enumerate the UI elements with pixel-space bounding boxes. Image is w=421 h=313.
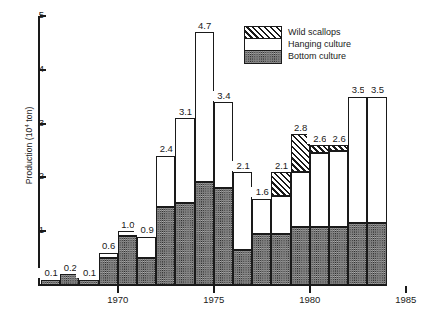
segment-bottom-culture-1981 — [329, 227, 348, 285]
segment-hanging-culture-1977 — [252, 199, 271, 234]
segment-wild-scallops-1978 — [271, 172, 290, 196]
bar-1973 — [175, 118, 194, 285]
x-tick-label-1985: 1985 — [384, 295, 421, 305]
segment-bottom-culture-1976 — [233, 250, 252, 285]
segment-hanging-culture-1982 — [348, 97, 367, 223]
segment-wild-scallops-1980 — [310, 145, 329, 153]
x-tick-1980 — [309, 286, 311, 293]
segment-bottom-culture-1970 — [118, 236, 137, 285]
x-tick-1975 — [213, 286, 215, 293]
segment-bottom-culture-1980 — [310, 227, 329, 285]
legend-swatch-hanging-culture — [245, 39, 281, 51]
segment-bottom-culture-1974 — [195, 182, 214, 285]
segment-bottom-culture-1983 — [367, 223, 386, 285]
segment-hanging-culture-1983 — [367, 97, 386, 223]
bar-1968 — [79, 280, 98, 285]
bar-1975 — [214, 102, 233, 285]
bar-1971 — [137, 237, 156, 285]
bar-value-label-1975: 3.4 — [211, 91, 237, 101]
bar-value-label-1976: 2.1 — [230, 161, 256, 171]
legend-label-wild-scallops: Wild scallops — [288, 26, 351, 38]
segment-hanging-culture-1974 — [195, 32, 214, 182]
segment-bottom-culture-1982 — [348, 223, 367, 285]
x-tick-label-1970: 1970 — [96, 295, 140, 305]
segment-hanging-culture-1969 — [99, 253, 118, 258]
segment-bottom-culture-1972 — [156, 207, 175, 285]
bar-1974 — [195, 32, 214, 285]
x-tick-1970 — [117, 286, 119, 293]
segment-bottom-culture-1977 — [252, 234, 271, 285]
bar-1979 — [291, 134, 310, 285]
segment-hanging-culture-1976 — [233, 172, 252, 250]
x-tick-label-1980: 1980 — [288, 295, 332, 305]
bar-1983 — [367, 97, 386, 285]
legend-swatch-wild-scallops — [245, 27, 281, 39]
segment-bottom-culture-1975 — [214, 188, 233, 285]
bar-value-label-1979: 2.8 — [288, 123, 314, 133]
bar-1977 — [252, 199, 271, 285]
segment-hanging-culture-1971 — [137, 237, 156, 259]
bar-1980 — [310, 145, 329, 285]
bar-value-label-1974: 4.7 — [192, 21, 218, 31]
legend: Wild scallopsHanging cultureBottom cultu… — [244, 26, 351, 64]
segment-bottom-culture-1969 — [99, 258, 118, 285]
legend-label-hanging-culture: Hanging culture — [288, 38, 351, 50]
segment-bottom-culture-1968 — [79, 280, 98, 285]
segment-bottom-culture-1966 — [41, 280, 60, 285]
bar-1970 — [118, 231, 137, 285]
bar-1982 — [348, 97, 367, 285]
bar-value-label-1983: 3.5 — [364, 85, 390, 95]
legend-labels: Wild scallopsHanging cultureBottom cultu… — [288, 26, 351, 62]
bar-1981 — [329, 145, 348, 285]
segment-hanging-culture-1978 — [271, 196, 290, 234]
segment-bottom-culture-1979 — [291, 227, 310, 285]
segment-hanging-culture-1972 — [156, 156, 175, 207]
x-tick-1985 — [405, 286, 407, 293]
y-axis-label: Production (104 ton) — [24, 70, 35, 220]
legend-swatches — [244, 26, 282, 64]
segment-hanging-culture-1975 — [214, 102, 233, 188]
bar-1978 — [271, 172, 290, 285]
bar-1966 — [41, 280, 60, 285]
segment-hanging-culture-1981 — [329, 151, 348, 227]
segment-wild-scallops-1981 — [329, 145, 348, 150]
segment-hanging-culture-1979 — [291, 172, 310, 227]
segment-bottom-culture-1978 — [271, 234, 290, 285]
x-tick-label-1975: 1975 — [192, 295, 236, 305]
legend-label-bottom-culture: Bottom culture — [288, 50, 351, 62]
bar-1972 — [156, 156, 175, 285]
segment-bottom-culture-1973 — [175, 203, 194, 285]
bar-1969 — [99, 253, 118, 285]
segment-hanging-culture-1980 — [310, 153, 329, 227]
legend-swatch-bottom-culture — [245, 51, 281, 63]
segment-bottom-culture-1971 — [137, 258, 156, 285]
segment-hanging-culture-1973 — [175, 118, 194, 203]
